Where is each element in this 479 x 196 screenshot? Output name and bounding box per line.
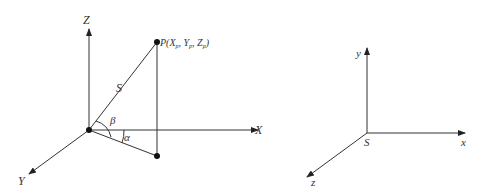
point-p-label: P(Xp, Yp, Zp) (159, 37, 210, 49)
z-axis-right (307, 133, 367, 177)
origin-point (86, 127, 92, 133)
y-axis (29, 130, 89, 174)
right-coordinate-diagram: y x z S (307, 47, 466, 188)
z-axis-label-right: z (310, 176, 316, 188)
diagram-canvas: Z X Y S β α P(Xp, Yp, Zp) y x z S (0, 0, 479, 196)
distance-label: S (116, 81, 122, 95)
beta-label: β (109, 114, 116, 126)
origin-label-right: S (364, 136, 370, 148)
distance-line-s (89, 42, 157, 130)
projection-point (154, 153, 160, 159)
alpha-label: α (124, 131, 130, 143)
left-coordinate-diagram: Z X Y S β α P(Xp, Yp, Zp) (18, 13, 263, 188)
z-axis-label: Z (83, 13, 90, 27)
beta-arc (96, 121, 111, 137)
y-axis-label: Y (18, 174, 26, 188)
x-axis-label-right: x (460, 136, 466, 148)
y-axis-label-right: y (355, 47, 361, 59)
ground-projection-line (89, 130, 157, 156)
x-axis-label: X (254, 123, 263, 137)
